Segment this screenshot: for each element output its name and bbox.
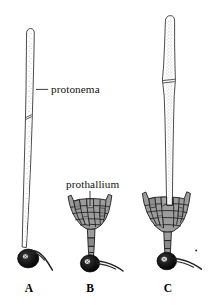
- spore-c: [157, 252, 177, 270]
- panel-label-c: C: [164, 282, 172, 294]
- prothallium-stalk-c: [164, 232, 172, 254]
- figure-plate: A: [0, 0, 217, 305]
- prothallium-stalk-b: [87, 229, 95, 257]
- prothallium-label: prothallium: [66, 178, 119, 190]
- spore-a: [18, 249, 39, 268]
- ink-speck: [195, 249, 197, 251]
- panel-label-a: A: [25, 282, 34, 294]
- protonema-label: protonema: [51, 83, 100, 95]
- panel-label-b: B: [86, 282, 94, 294]
- botanical-illustration: A: [0, 0, 217, 305]
